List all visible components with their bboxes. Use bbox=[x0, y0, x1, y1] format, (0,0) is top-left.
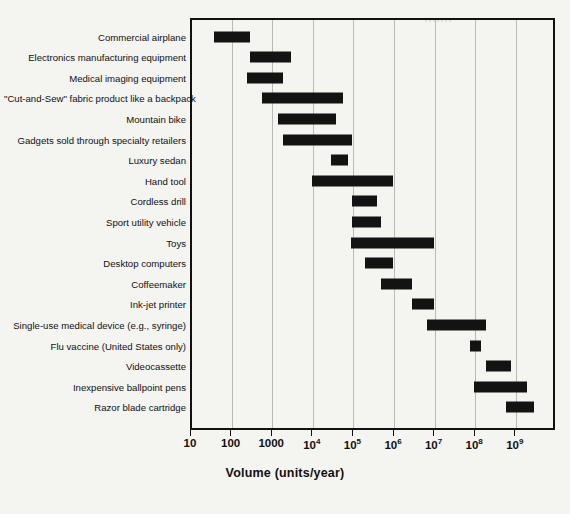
range-bar bbox=[474, 381, 527, 392]
range-bar bbox=[262, 93, 343, 104]
range-bar bbox=[365, 258, 393, 269]
tick-label-exponent: 4 bbox=[316, 437, 320, 446]
range-bar bbox=[247, 72, 284, 83]
range-bar bbox=[506, 402, 534, 413]
tick-label-exponent: 8 bbox=[478, 437, 482, 446]
x-axis-tick-label: 106 bbox=[384, 437, 401, 451]
range-bar bbox=[352, 216, 380, 227]
range-bar bbox=[486, 361, 510, 372]
x-axis-tick bbox=[352, 430, 353, 436]
tick-label-base: 10 bbox=[506, 439, 519, 451]
range-bar bbox=[250, 52, 291, 63]
tick-label-exponent: 7 bbox=[438, 437, 442, 446]
range-bar bbox=[352, 196, 376, 207]
x-axis-tick-label: 105 bbox=[344, 437, 361, 451]
range-bar bbox=[427, 319, 486, 330]
x-axis-tick bbox=[433, 430, 434, 436]
tick-label-exponent: 9 bbox=[519, 437, 523, 446]
range-bar bbox=[278, 113, 336, 124]
tick-label-base: 1000 bbox=[258, 437, 284, 449]
x-axis-tick bbox=[230, 430, 231, 436]
x-axis-tick-label: 100 bbox=[221, 437, 240, 449]
tick-label-base: 10 bbox=[344, 439, 357, 451]
tick-label-base: 10 bbox=[184, 437, 197, 449]
range-bar bbox=[470, 340, 481, 351]
range-bar bbox=[312, 175, 393, 186]
range-bar bbox=[381, 278, 413, 289]
x-axis-tick-label: 109 bbox=[506, 437, 523, 451]
x-axis-tick bbox=[190, 430, 191, 436]
x-axis-tick-label: 1000 bbox=[258, 437, 284, 449]
tick-label-exponent: 6 bbox=[397, 437, 401, 446]
range-bar bbox=[351, 237, 434, 248]
tick-label-base: 100 bbox=[221, 437, 240, 449]
range-bar bbox=[214, 31, 250, 42]
x-axis-tick-label: 10 bbox=[184, 437, 197, 449]
tick-label-base: 10 bbox=[466, 439, 479, 451]
x-axis-tick bbox=[271, 430, 272, 436]
x-axis-tick-label: 104 bbox=[303, 437, 320, 451]
x-axis-tick-label: 107 bbox=[425, 437, 442, 451]
tick-label-base: 10 bbox=[425, 439, 438, 451]
bars-layer bbox=[0, 0, 570, 514]
tick-label-base: 10 bbox=[303, 439, 316, 451]
x-axis-tick bbox=[393, 430, 394, 436]
x-axis-tick-label: 108 bbox=[466, 437, 483, 451]
tick-label-exponent: 5 bbox=[357, 437, 361, 446]
volume-range-chart: ....... Commercial airplaneElectronics m… bbox=[0, 0, 570, 514]
x-axis-title: Volume (units/year) bbox=[0, 466, 570, 480]
x-axis-tick bbox=[311, 430, 312, 436]
range-bar bbox=[331, 155, 348, 166]
range-bar bbox=[283, 134, 352, 145]
tick-label-base: 10 bbox=[384, 439, 397, 451]
x-axis-tick bbox=[474, 430, 475, 436]
x-axis-tick bbox=[514, 430, 515, 436]
range-bar bbox=[412, 299, 433, 310]
